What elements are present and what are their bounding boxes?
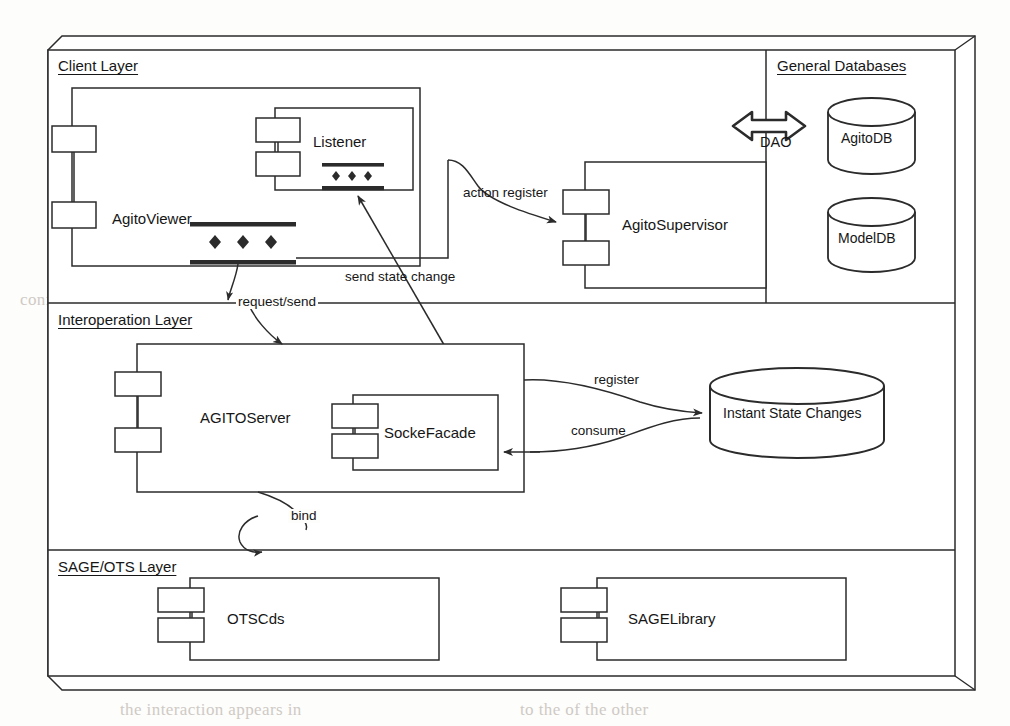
diagram-vectors <box>0 0 1010 726</box>
component-label-agito-server[interactable]: AGITOServer <box>200 410 291 425</box>
layer-title-sage-ots: SAGE/OTS Layer <box>58 559 176 574</box>
datastore-label-instant-state-changes[interactable]: Instant State Changes <box>723 406 862 420</box>
component-label-listener[interactable]: Listener <box>313 134 366 149</box>
connector-label-action-register: action register <box>463 186 548 200</box>
datastore-label-model-db[interactable]: ModelDB <box>838 231 896 245</box>
connector-label-request-send: request/send <box>236 295 318 309</box>
connector-label-register: register <box>594 373 639 387</box>
datastore-label-agito-db[interactable]: AgitoDB <box>841 131 892 145</box>
connector-label-send-state-change: send state change <box>345 270 455 284</box>
component-label-otscds[interactable]: OTSCds <box>227 611 285 626</box>
component-label-agito-supervisor[interactable]: AgitoSupervisor <box>622 217 728 232</box>
component-label-agito-viewer[interactable]: AgitoViewer <box>112 211 192 226</box>
diagram-canvas: reaching it as regular in real timeat se… <box>0 0 1010 726</box>
component-box-otscds <box>158 578 439 660</box>
connector-label-consume: consume <box>571 424 626 438</box>
layer-title-client: Client Layer <box>58 58 138 73</box>
layer-title-interoperation: Interoperation Layer <box>58 312 192 327</box>
partition-title-general-databases: General Databases <box>777 58 906 73</box>
component-label-sage-library[interactable]: SAGELibrary <box>628 611 716 626</box>
connector-label-dao: DAO <box>760 135 791 150</box>
component-label-socke-facade[interactable]: SockeFacade <box>384 425 476 440</box>
connector-label-bind: bind <box>288 509 320 523</box>
